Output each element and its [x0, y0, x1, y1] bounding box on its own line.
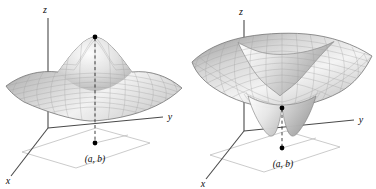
axis-x-min: [206, 131, 244, 179]
axis-x-max: [11, 128, 48, 176]
base-point-max: [93, 141, 98, 146]
maximum-point: [93, 35, 98, 40]
surface-max: [6, 37, 182, 121]
panel-local-minimum: z y x (a, b): [188, 0, 376, 189]
critical-point-label-min: (a, b): [273, 159, 294, 170]
axis-x-label-max: x: [5, 175, 11, 186]
base-point-min: [280, 146, 285, 151]
axis-z-label-max: z: [42, 4, 47, 15]
axis-y-label-min: y: [358, 114, 364, 125]
base-connectors-min: [282, 138, 316, 148]
axis-y-label-max: y: [167, 111, 173, 122]
axis-z-label-min: z: [238, 6, 243, 17]
panel-local-maximum: z y x (a, b): [0, 0, 188, 189]
axis-x-label-min: x: [200, 178, 206, 189]
base-connectors-max: [95, 135, 128, 143]
surface-figure: z y x (a, b): [0, 0, 376, 189]
minimum-point: [280, 106, 285, 111]
critical-point-label-max: (a, b): [85, 154, 106, 165]
